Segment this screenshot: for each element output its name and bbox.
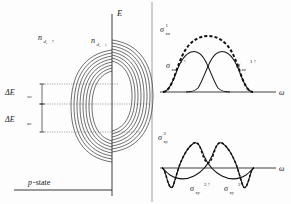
sigma-xx-up-subscript: xx (171, 67, 177, 72)
dos-lobe-spin-up (71, 50, 112, 162)
sigma-xx-total-sigma: σ (160, 25, 165, 34)
sigma-xy-down-arrow-icon: ↓ (242, 181, 245, 187)
dos-spin-up-subscript: d, (44, 39, 48, 45)
spin-up-arrow-icon: ↑ (52, 38, 55, 44)
sigma-xy-panel: ω σ xy 2 σ xy 2 ↑ σ xy 2 ↓ (158, 131, 284, 195)
label-sigma-xy-spin-down: σ xy 2 ↓ (224, 181, 245, 195)
sigma-xx-spin-up-curve (163, 51, 230, 92)
delta-e-xc-text: ΔE (4, 115, 15, 124)
sigma-xx-down-sigma: σ (236, 61, 241, 70)
p-state-italic-p: p (27, 178, 32, 187)
sigma-xy-total-superscript: 2 (164, 131, 167, 136)
sigma-xx-spin-down-curve (186, 51, 253, 92)
sigma-xy-up-sigma: σ (190, 184, 195, 193)
label-dos-spin-down: n d, ↓ (91, 36, 108, 48)
sigma-xy-total-sigma: σ (158, 133, 163, 142)
sigma-xx-down-subscript: xx (241, 67, 247, 72)
sigma-xy-up-subscript: xy (195, 190, 201, 195)
label-delta-e-xc: ΔE xc (4, 115, 32, 126)
delta-e-so-text: ΔE (4, 88, 15, 97)
figure-svg: E (0, 0, 291, 204)
dos-spin-down-symbol: n (91, 36, 95, 45)
delta-e-xc-subscript: xc (26, 121, 32, 126)
dos-spin-down-subscript: d, (97, 42, 101, 48)
bracket-delta-e-xc (40, 104, 45, 132)
bracket-delta-e-so (40, 84, 45, 104)
label-sigma-xx-spin-down: σ xx 1 ↑ (236, 58, 257, 72)
sigma-xx-up-arrow-icon: ↑ (184, 58, 187, 64)
sigma-xx-panel: ω σ xx 1 σ xx 1 ↑ σ xx 1 ↑ (160, 23, 284, 97)
figure-canvas: E (0, 0, 291, 204)
label-delta-e-so: ΔE so (4, 88, 32, 99)
label-dos-spin-up: n d, ↑ (38, 33, 55, 45)
sigma-xy-up-arrow-icon: ↑ (208, 181, 211, 187)
sigma-xy-omega-label: ω (279, 164, 284, 173)
label-sigma-xx-total: σ xx 1 (160, 23, 171, 36)
sigma-xx-up-sigma: σ (166, 61, 171, 70)
sigma-xx-omega-label: ω (279, 88, 284, 97)
sigma-xx-down-arrow-icon: ↑ (254, 58, 257, 64)
sigma-xy-down-subscript: xy (229, 190, 235, 195)
label-sigma-xy-total: σ xy 2 (158, 131, 169, 144)
p-state-rest: -state (33, 178, 51, 187)
sigma-xy-down-sigma: σ (224, 184, 229, 193)
label-p-state: p -state (27, 178, 51, 187)
sigma-xx-total-subscript: xx (165, 31, 171, 36)
label-sigma-xy-spin-up: σ xy 2 ↑ (190, 181, 211, 195)
delta-e-so-subscript: so (27, 94, 32, 99)
dos-panel: E (4, 8, 153, 196)
energy-axis-label: E (116, 8, 123, 18)
sigma-xx-total-superscript: 1 (166, 23, 169, 28)
dos-spin-up-symbol: n (38, 33, 42, 42)
dos-lobe-spin-down (112, 40, 153, 152)
sigma-xy-total-subscript: xy (163, 139, 169, 144)
spin-down-arrow-icon: ↓ (105, 41, 108, 47)
